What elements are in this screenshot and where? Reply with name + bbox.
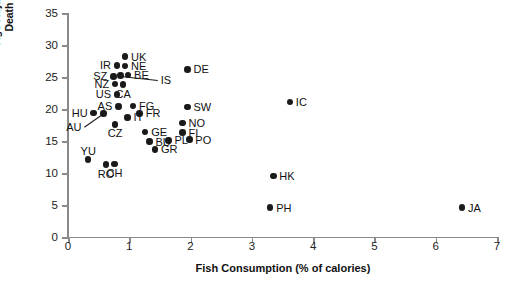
x-axis-tick-label: 6: [433, 240, 439, 252]
data-point: [152, 146, 159, 153]
y-axis-tick: [62, 205, 68, 207]
data-point-label: JA: [468, 202, 481, 214]
x-axis-tick-label: 4: [310, 240, 316, 252]
data-point-label: CZ: [108, 127, 123, 139]
data-point: [114, 91, 121, 98]
data-point-label: IC: [296, 96, 307, 108]
data-point: [85, 156, 92, 163]
data-point: [267, 204, 274, 211]
plot-area: UKIRNEBESZISNZCAUSASFGFRHUAUITCZGENOFIPO…: [68, 13, 497, 237]
data-point-label: IS: [161, 74, 171, 86]
data-point: [115, 103, 122, 110]
y-axis-tick: [62, 45, 68, 47]
y-axis-title-line1: Age-Adjusted Breast Cancer: [0, 0, 2, 45]
data-point: [114, 62, 121, 69]
data-point-label: CH: [107, 167, 123, 179]
data-point: [179, 120, 186, 127]
data-point: [124, 114, 131, 121]
data-point: [130, 103, 137, 110]
data-point-label: US: [96, 88, 111, 100]
y-axis-tick-label: 25: [8, 71, 58, 83]
data-point: [112, 81, 119, 88]
y-axis-tick-label: 0: [8, 231, 58, 243]
data-point-label: IT: [133, 111, 143, 123]
data-point: [146, 138, 153, 145]
y-axis-tick-label: 35: [8, 7, 58, 19]
x-axis-tick-label: 1: [126, 240, 132, 252]
data-point-label: GR: [161, 143, 178, 155]
data-point-label: HU: [72, 107, 88, 119]
y-axis-tick: [62, 173, 68, 175]
data-point: [287, 99, 294, 106]
data-point-label: YU: [81, 145, 96, 157]
x-axis-tick-label: 0: [65, 240, 71, 252]
scatter-plot-figure: Age-Adjusted Breast Cancer Death Rate pe…: [0, 0, 520, 288]
data-point-label: PH: [276, 202, 291, 214]
data-point-label: FR: [146, 107, 161, 119]
data-point-label: AU: [66, 121, 81, 133]
y-axis-tick: [62, 109, 68, 111]
data-point: [122, 63, 129, 70]
y-axis-tick-label: 5: [8, 199, 58, 211]
x-axis-tick-label: 7: [494, 240, 500, 252]
data-point: [110, 73, 117, 80]
data-point: [90, 110, 97, 117]
data-point: [122, 53, 129, 60]
y-axis-tick: [62, 77, 68, 79]
data-point-label: PO: [195, 134, 211, 146]
x-axis-tick-label: 3: [249, 240, 255, 252]
y-axis-tick: [62, 13, 68, 15]
data-point: [142, 129, 149, 136]
y-axis-tick-label: 30: [8, 39, 58, 51]
y-axis-tick-label: 10: [8, 167, 58, 179]
data-point-label: DE: [194, 63, 209, 75]
data-point: [184, 104, 191, 111]
x-axis-tick-label: 2: [187, 240, 193, 252]
data-point: [270, 173, 277, 180]
x-axis-tick-label: 5: [371, 240, 377, 252]
data-point: [459, 204, 466, 211]
x-axis-title: Fish Consumption (% of calories): [68, 262, 498, 274]
data-point-label: SW: [194, 101, 212, 113]
y-axis-tick-label: 15: [8, 135, 58, 147]
y-axis-tick-label: 20: [8, 103, 58, 115]
data-point: [184, 66, 191, 73]
y-axis-tick: [62, 141, 68, 143]
data-point-label: HK: [279, 170, 294, 182]
